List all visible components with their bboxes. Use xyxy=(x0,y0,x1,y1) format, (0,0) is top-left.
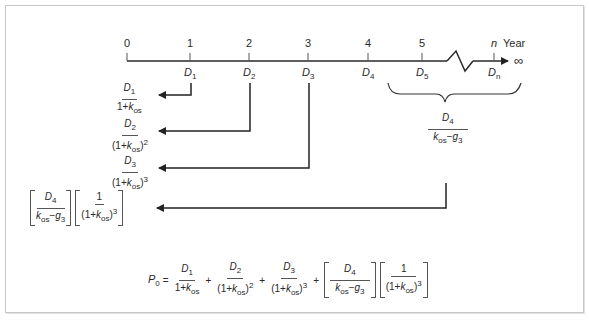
pv-term-1: D1 1+kos xyxy=(117,82,142,117)
terminal-value: D4 kos−g3 xyxy=(428,112,468,147)
tick-label-4: 4 xyxy=(365,37,371,49)
tick-label-3: 3 xyxy=(305,37,311,49)
terminal-pv-term: D4 kos−g3 1 (1+kos)3 xyxy=(28,190,125,226)
pv-term-3: D3 (1+kos)3 xyxy=(112,155,148,193)
formula-bracket-discount: 1 (1+kos)3 xyxy=(380,262,428,298)
bracket-terminal: D4 kos−g3 xyxy=(30,190,71,226)
formula-term-1: D1 1+kos xyxy=(175,263,200,298)
dividend-d1: D1 xyxy=(184,66,196,83)
formula-lhs: P0 xyxy=(148,273,160,288)
bracket-discount: 1 (1+kos)3 xyxy=(75,190,123,226)
dividend-d5: D5 xyxy=(416,66,428,83)
formula-term-2: D2 (1+kos)2 xyxy=(217,261,253,299)
dividend-d4: D4 xyxy=(362,66,374,83)
dividend-d2: D2 xyxy=(243,66,255,83)
valuation-formula: P0 = D1 1+kos + D2 (1+kos)2 + D3 (1+kos)… xyxy=(148,262,430,298)
curly-brace xyxy=(388,83,521,102)
axis-label-year: Year xyxy=(503,37,525,49)
axis-ticks xyxy=(127,53,494,61)
dividend-d3: D3 xyxy=(302,66,314,83)
tick-label-2: 2 xyxy=(246,37,252,49)
pv-term-2: D2 (1+kos)2 xyxy=(112,118,148,156)
dividend-dn: Dn xyxy=(488,66,500,83)
tick-label-n: n xyxy=(491,37,497,49)
tick-label-5: 5 xyxy=(419,37,425,49)
tick-label-1: 1 xyxy=(187,37,193,49)
formula-term-3: D3 (1+kos)3 xyxy=(271,261,307,299)
infinity-symbol: ∞ xyxy=(514,55,523,67)
discount-arrows xyxy=(157,83,446,208)
formula-bracket-terminal: D4 kos−g3 xyxy=(324,262,376,298)
tick-label-0: 0 xyxy=(124,37,130,49)
